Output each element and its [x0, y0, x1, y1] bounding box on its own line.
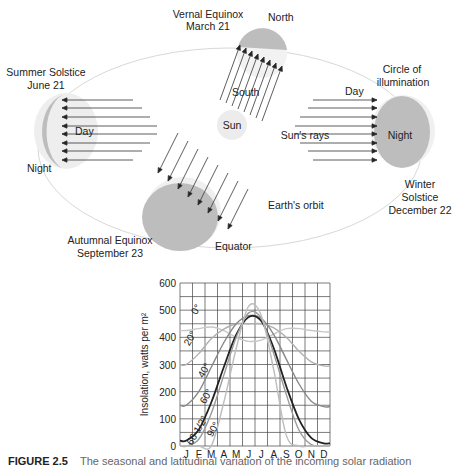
night-left-label: Night	[27, 162, 52, 174]
summer-label-1: Summer Solstice	[6, 66, 86, 78]
sun-rays-label: Sun's rays	[281, 129, 330, 141]
day-left-label: Day	[75, 125, 94, 137]
y-tick-label: 100	[159, 414, 176, 425]
y-tick-label: 400	[159, 332, 176, 343]
series-label: 40°	[195, 361, 212, 380]
night-right-label: Night	[388, 129, 413, 141]
y-tick-label: 600	[159, 278, 176, 289]
caption-text: The seasonal and latitudinal variation o…	[80, 455, 411, 467]
winter-label-1: Winter	[405, 178, 436, 190]
winter-label-3: December 22	[388, 204, 451, 216]
arrow-head	[158, 168, 162, 173]
sun-label: Sun	[223, 119, 242, 131]
day-right-label: Day	[345, 85, 364, 97]
circle-label-2: illumination	[377, 76, 430, 88]
autumnal-label-2: September 23	[77, 247, 143, 259]
arrow-head	[372, 98, 377, 102]
earth-summer	[34, 93, 157, 169]
series-label: 20°	[181, 329, 198, 348]
insolation-chart: 0100200300400500600JFMAMJJASONDInsolatio…	[139, 278, 330, 460]
earth-orbit	[38, 48, 422, 248]
y-tick-label: 300	[159, 360, 176, 371]
y-tick-label: 500	[159, 305, 176, 316]
arrow-head	[372, 158, 377, 162]
vernal-label-2: March 21	[186, 20, 230, 32]
vernal-label-1: Vernal Equinox	[173, 8, 244, 20]
y-tick-label: 0	[170, 441, 176, 452]
orbit-label: Earth's orbit	[268, 199, 324, 211]
y-axis-label: Insolation, watts per m²	[139, 312, 150, 416]
earth-autumnal	[142, 133, 248, 251]
series-label: 0°	[189, 302, 203, 316]
circle-label-1: Circle of	[383, 63, 422, 75]
arrow-head	[228, 224, 232, 229]
figure-number: FIGURE 2.5	[8, 455, 68, 467]
summer-label-2: June 21	[27, 79, 65, 91]
winter-label-2: Solstice	[402, 191, 439, 203]
figure-caption: FIGURE 2.5The seasonal and latitudinal v…	[8, 455, 411, 467]
autumnal-label-1: Autumnal Equinox	[67, 234, 153, 246]
north-label: North	[268, 11, 294, 23]
equator-label: Equator	[215, 240, 252, 252]
arrow-head	[372, 106, 377, 110]
south-label: South	[232, 86, 260, 98]
earth-vernal	[220, 28, 287, 121]
y-tick-label: 200	[159, 387, 176, 398]
